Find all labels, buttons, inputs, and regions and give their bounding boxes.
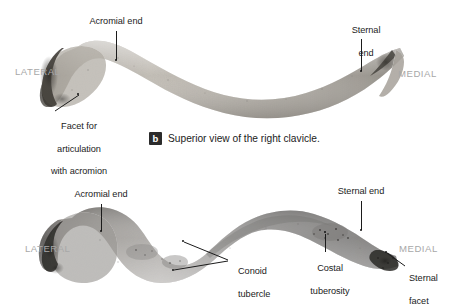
label-sternal-facet-line1: Sternal (409, 273, 438, 283)
leader-acromial-end-superior (116, 31, 117, 60)
caption-badge-b: b (149, 132, 162, 145)
label-costal-line1: Costal (317, 263, 343, 273)
leader-acromial-end-inferior (101, 204, 102, 231)
label-sternal-end-superior-line1: Sternal (352, 25, 381, 35)
leader-conoid-tubercle (172, 240, 230, 274)
leader-sternal-end-superior (361, 39, 362, 71)
figure-caption-b: b Superior view of the right clavicle. (149, 132, 320, 145)
leader-facet-for-articulation (54, 94, 88, 112)
leader-sternal-facet (385, 252, 407, 268)
label-sternal-facet: Sternal facet (399, 262, 454, 308)
label-facet-line1: Facet for (61, 121, 97, 131)
label-sternal-facet-line2: facet (409, 296, 429, 306)
orientation-label-lateral-superior: LATERAL (15, 66, 60, 77)
leader-costal-tuberosity (325, 234, 326, 252)
label-sternal-end-inferior: Sternal end (320, 186, 402, 197)
orientation-label-medial-superior: MEDIAL (398, 68, 437, 79)
label-acromial-end-superior: Acromial end (71, 16, 161, 27)
orientation-label-lateral-inferior: LATERAL (25, 243, 70, 254)
caption-text-b: Superior view of the right clavicle. (168, 133, 320, 144)
label-acromial-end-inferior: Acromial end (56, 189, 146, 200)
label-costal-tuberosity: Costal tuberosity (288, 252, 362, 308)
label-costal-line2: tuberosity (310, 286, 349, 296)
label-facet-line3: with acromion (51, 166, 107, 176)
label-conoid-line1: Conoid (238, 266, 267, 276)
leader-sternal-end-inferior (361, 201, 362, 230)
label-facet-for-articulation: Facet for articulation with acromion (22, 110, 126, 188)
label-conoid-line2: tubercle (238, 289, 270, 299)
label-facet-line2: articulation (57, 144, 101, 154)
